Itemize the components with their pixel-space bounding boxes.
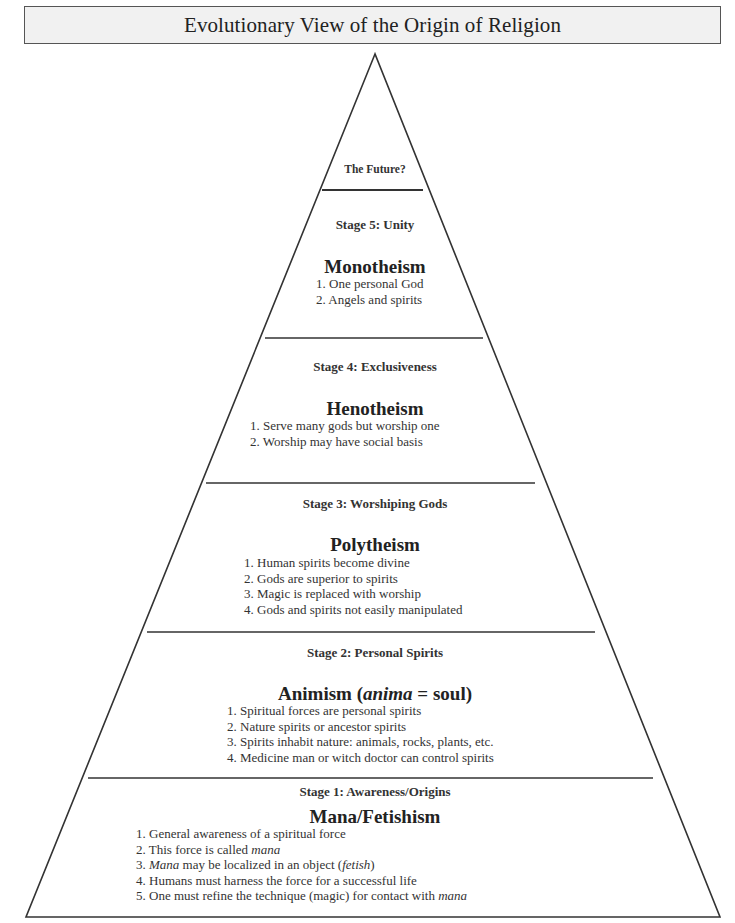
list-item: 1. One personal God (316, 276, 424, 292)
future-label: The Future? (0, 163, 735, 175)
stage1-heading: Stage 1: Awareness/Origins (0, 784, 735, 800)
stage3-heading: Stage 3: Worshiping Gods (0, 496, 735, 512)
stage1-items: 1. General awareness of a spiritual forc… (136, 826, 467, 904)
list-item: 1. Spiritual forces are personal spirits (227, 703, 494, 719)
stage4-heading: Stage 4: Exclusiveness (0, 359, 735, 375)
stage2-name: Animism (anima = soul) (0, 683, 735, 705)
list-item: 3. Mana may be localized in an object (f… (136, 857, 467, 873)
list-item: 1. General awareness of a spiritual forc… (136, 826, 467, 842)
list-item: 2. Gods are superior to spirits (244, 571, 462, 587)
list-item: 2. Angels and spirits (316, 292, 424, 308)
list-item: 5. One must refine the technique (magic)… (136, 888, 467, 904)
stage1-name: Mana/Fetishism (0, 806, 735, 828)
list-item: 2. Nature spirits or ancestor spirits (227, 719, 494, 735)
stage5-name: Monotheism (0, 256, 735, 278)
stage2-items: 1. Spiritual forces are personal spirits… (227, 703, 494, 765)
list-item: 1. Human spirits become divine (244, 555, 462, 571)
stage3-name: Polytheism (0, 534, 735, 556)
list-item: 1. Serve many gods but worship one (250, 418, 440, 434)
stage3-items: 1. Human spirits become divine 2. Gods a… (244, 555, 462, 617)
list-item: 3. Magic is replaced with worship (244, 586, 462, 602)
stage5-items: 1. One personal God 2. Angels and spirit… (316, 276, 424, 307)
list-item: 3. Spirits inhabit nature: animals, rock… (227, 734, 494, 750)
stage2-heading: Stage 2: Personal Spirits (0, 645, 735, 661)
stage4-name: Henotheism (0, 398, 735, 420)
list-item: 2. Worship may have social basis (250, 434, 440, 450)
list-item: 4. Gods and spirits not easily manipulat… (244, 602, 462, 618)
list-item: 2. This force is called mana (136, 842, 467, 858)
list-item: 4. Humans must harness the force for a s… (136, 873, 467, 889)
stage5-heading: Stage 5: Unity (0, 217, 735, 233)
stage4-items: 1. Serve many gods but worship one 2. Wo… (250, 418, 440, 449)
list-item: 4. Medicine man or witch doctor can cont… (227, 750, 494, 766)
